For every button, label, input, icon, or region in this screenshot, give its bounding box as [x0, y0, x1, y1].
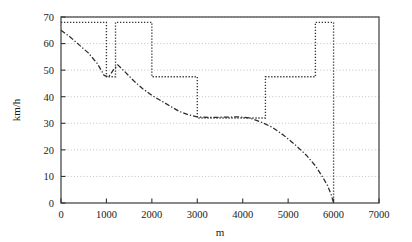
x-tick-label: 3000 — [187, 209, 208, 220]
y-tick-label: 50 — [44, 65, 55, 76]
x-tick-label: 0 — [58, 209, 63, 220]
series-speed-limit — [61, 22, 334, 203]
data-series-group — [61, 22, 334, 203]
y-tick-label: 20 — [44, 145, 55, 156]
y-axis-label: km/h — [10, 98, 22, 121]
y-ticks-group — [61, 17, 66, 203]
gridlines-group — [61, 17, 379, 176]
x-tick-label: 7000 — [369, 209, 390, 220]
x-tick-label: 6000 — [323, 209, 344, 220]
chart-svg: 0100020003000400050006000700001020304050… — [0, 0, 412, 242]
x-axis-label: m — [216, 226, 225, 238]
x-tick-label: 1000 — [96, 209, 117, 220]
y-tick-label: 10 — [44, 171, 55, 182]
y-tick-label: 30 — [44, 118, 55, 129]
y-tick-label: 60 — [44, 38, 55, 49]
plot-border — [61, 17, 379, 203]
tick-labels-group: 0100020003000400050006000700001020304050… — [44, 12, 390, 220]
x-tick-label: 4000 — [232, 209, 253, 220]
x-ticks-group — [61, 199, 379, 204]
axes-frame — [61, 17, 379, 203]
y-tick-label: 0 — [49, 198, 54, 209]
chart-figure: 0100020003000400050006000700001020304050… — [0, 0, 412, 242]
series-actual-speed — [61, 30, 334, 203]
y-tick-label: 70 — [44, 12, 55, 23]
y-tick-label: 40 — [44, 92, 55, 103]
chart-plot-area: 0100020003000400050006000700001020304050… — [0, 0, 412, 242]
x-tick-label: 5000 — [278, 209, 299, 220]
x-tick-label: 2000 — [141, 209, 162, 220]
